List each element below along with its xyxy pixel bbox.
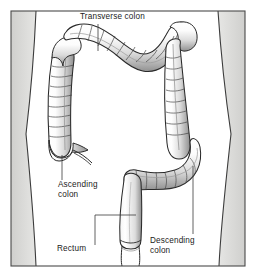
- label-descending-colon-line1: Descending: [150, 236, 195, 245]
- colon-anatomy-figure: Transverse colon Ascending colon Descend…: [0, 0, 257, 278]
- label-transverse-colon: Transverse colon: [80, 12, 145, 21]
- label-rectum: Rectum: [57, 244, 86, 253]
- anatomy-illustration: Transverse colon Ascending colon Descend…: [0, 0, 257, 278]
- label-ascending-colon-line1: Ascending: [58, 180, 98, 189]
- label-descending-colon-line2: colon: [150, 246, 171, 255]
- label-ascending-colon-line2: colon: [58, 190, 79, 199]
- ascending-colon-segment: [48, 47, 74, 157]
